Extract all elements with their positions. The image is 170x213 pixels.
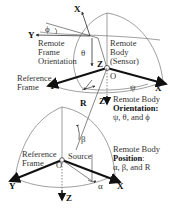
top-y-left-axis-label: Y [28,31,35,40]
psi-label: ψ [130,83,136,92]
remote-body-sensor-label: Remote Body (Sensor) [110,39,139,66]
bottom-x-axis-label: X [117,182,124,191]
bottom-y-axis-label: Y [9,182,16,191]
r-label: R [80,99,87,108]
remote-frame-orientation-label: Remote Frame Orientation [38,39,77,66]
top-z-inner-axis-label: Z [97,60,103,69]
theta-label: θ [81,49,85,58]
source-label: Source [68,152,92,161]
orientation-caption: Remote Body Orientation: ψ, θ, and ϕ [113,95,160,122]
top-origin-label: O [110,72,116,81]
bottom-z-axis-label: Z [66,194,72,203]
top-z-down-axis-label: Z [99,97,105,106]
position-caption: Remote Body Position: α, β, and R [113,145,160,172]
alpha-label: α [98,182,103,191]
bottom-reference-frame-label: Reference Frame [22,150,56,168]
top-x-tilted-axis-label: X [74,5,81,14]
bottom-origin-label: O [56,161,62,170]
top-x-ref-axis-label: X [155,84,162,93]
phi-label: ϕ [45,25,50,34]
top-reference-frame-label: Reference Frame [17,74,51,92]
beta-label: β [81,135,86,144]
